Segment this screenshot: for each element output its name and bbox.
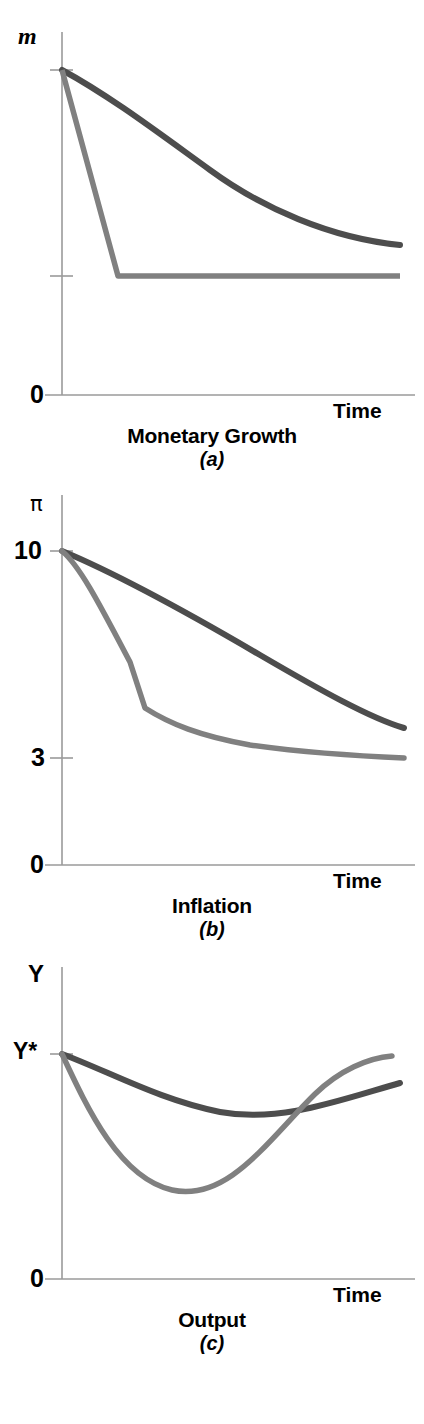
panel-c-series-gradual — [62, 1054, 400, 1115]
panel-c-tick-label-y-star: Y* — [13, 1040, 37, 1063]
panel-a-caption: Monetary Growth — [0, 424, 424, 448]
panel-c-caption-sub: (c) — [0, 1332, 424, 1354]
panel-inflation: π 10 3 0 Time Inflation (b) — [0, 470, 424, 950]
panel-a-origin-label: 0 — [30, 382, 44, 407]
three-panel-figure: m 0 Time Monetary Growth (a) π 10 3 0 Ti… — [0, 0, 424, 1424]
panel-b-caption-sub: (b) — [0, 918, 424, 940]
panel-c-caption: Output — [0, 1308, 424, 1332]
panel-b-tick-label-3: 3 — [31, 745, 45, 770]
panel-c-origin-label: 0 — [30, 1266, 44, 1291]
panel-a-caption-sub: (a) — [0, 448, 424, 470]
panel-b-series-gradual — [62, 551, 404, 728]
panel-output: Y Y* 0 Time Output (c) — [0, 940, 424, 1424]
panel-b-origin-label: 0 — [30, 852, 44, 877]
panel-a-series-gradual — [62, 70, 400, 245]
panel-c-y-axis-label: Y — [28, 962, 44, 986]
panel-monetary-growth: m 0 Time Monetary Growth (a) — [0, 0, 424, 480]
panel-a-x-axis-label: Time — [333, 400, 382, 421]
panel-b-caption: Inflation — [0, 894, 424, 918]
panel-c-x-axis-label: Time — [333, 1284, 382, 1305]
panel-b-tick-label-10: 10 — [14, 538, 42, 563]
panel-a-y-axis-label: m — [18, 24, 36, 48]
panel-b-series-cold-turkey — [62, 551, 404, 758]
panel-b-x-axis-label: Time — [333, 870, 382, 891]
panel-b-y-axis-label: π — [30, 494, 43, 515]
